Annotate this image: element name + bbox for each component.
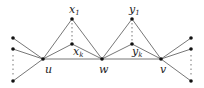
node: [189, 36, 193, 40]
label-w: w: [99, 63, 109, 76]
node-u: [41, 57, 45, 61]
label-x1: x1: [69, 3, 80, 17]
label-v: v: [160, 63, 167, 76]
node: [11, 36, 15, 40]
node: [189, 79, 193, 83]
label-y1: y1: [128, 3, 140, 17]
labels: u w v x1 xk y1 yk: [45, 3, 167, 76]
node-x1: [70, 17, 74, 21]
node: [11, 79, 15, 83]
label-xk: xk: [73, 45, 83, 59]
label-u: u: [45, 63, 52, 76]
node-v: [159, 57, 163, 61]
node: [11, 47, 15, 51]
node-y1: [130, 17, 134, 21]
node: [189, 47, 193, 51]
graph-diagram: u w v x1 xk y1 yk: [0, 0, 204, 88]
label-yk: yk: [131, 45, 142, 59]
node-w: [100, 57, 104, 61]
